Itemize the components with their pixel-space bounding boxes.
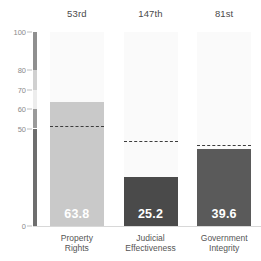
bar-column-judicial-effectiveness[interactable]: 25.2 <box>124 32 178 226</box>
bar-fill-judicial-effectiveness: 25.2 <box>124 177 178 226</box>
rank-label-property-rights: 53rd <box>40 8 114 19</box>
bar-column-government-integrity[interactable]: 39.6 <box>197 32 251 226</box>
rank-label-government-integrity: 81st <box>187 8 261 19</box>
y-tick-mark-100 <box>27 31 32 32</box>
category-label-government-integrity: Government Integrity <box>187 233 261 253</box>
bar-value-government-integrity: 39.6 <box>197 207 251 221</box>
axis-rail-segment-2 <box>33 90 37 109</box>
x-axis-baseline <box>33 226 261 227</box>
world-average-marker-judicial-effectiveness <box>124 141 178 142</box>
bar-value-judicial-effectiveness: 25.2 <box>124 207 178 221</box>
rank-label-row: 53rd 147th 81st <box>40 8 261 24</box>
y-tick-label-60: 60 <box>18 105 26 114</box>
y-tick-mark-0 <box>27 225 32 226</box>
economic-freedom-rule-of-law-bar-chart: 53rd 147th 81st 100 80 70 60 50 0 63.8 2… <box>0 0 261 261</box>
category-label-judicial-effectiveness: Judicial Effectiveness <box>114 233 188 253</box>
category-label-property-rights: Property Rights <box>40 233 114 253</box>
bar-fill-property-rights: 63.8 <box>50 102 104 226</box>
world-average-marker-property-rights <box>50 126 104 127</box>
y-axis-color-rail <box>33 32 37 226</box>
axis-rail-segment-0 <box>33 32 37 71</box>
bar-fill-government-integrity: 39.6 <box>197 149 251 226</box>
axis-rail-segment-3 <box>33 109 37 128</box>
axis-rail-segment-1 <box>33 70 37 89</box>
y-tick-mark-50 <box>27 128 32 129</box>
bar-value-property-rights: 63.8 <box>50 207 104 221</box>
axis-rail-segment-4 <box>33 129 37 226</box>
plot-area: 63.8 25.2 39.6 <box>40 32 261 226</box>
y-tick-label-100: 100 <box>13 27 26 36</box>
world-average-marker-government-integrity <box>197 145 251 146</box>
bar-column-property-rights[interactable]: 63.8 <box>50 32 104 226</box>
y-tick-label-0: 0 <box>22 221 26 230</box>
rank-label-judicial-effectiveness: 147th <box>114 8 188 19</box>
y-tick-label-50: 50 <box>18 124 26 133</box>
y-axis: 100 80 70 60 50 0 <box>0 0 26 261</box>
y-tick-label-80: 80 <box>18 66 26 75</box>
y-tick-label-70: 70 <box>18 85 26 94</box>
y-tick-mark-70 <box>27 89 32 90</box>
y-tick-mark-80 <box>27 70 32 71</box>
y-tick-mark-60 <box>27 109 32 110</box>
